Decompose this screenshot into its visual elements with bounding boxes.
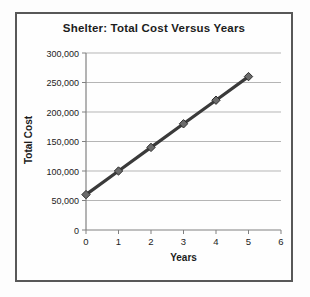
y-tick-label: 250,000 [46, 78, 79, 88]
x-tick-label: 3 [181, 236, 186, 247]
x-tick-label: 2 [148, 236, 153, 247]
chart-frame: Shelter: Total Cost Versus Years 050,000… [15, 12, 293, 282]
y-tick-label: 200,000 [46, 108, 79, 118]
x-tick-label: 6 [278, 236, 283, 247]
line-chart-plot: 050,000100,000150,000200,000250,000300,0… [17, 14, 291, 280]
x-tick-label: 1 [116, 236, 121, 247]
y-axis-title: Total Cost [23, 90, 37, 190]
series-line [86, 77, 249, 195]
y-tick-label: 150,000 [46, 137, 79, 147]
y-tick-label: 300,000 [46, 49, 79, 59]
x-tick-label: 0 [83, 236, 88, 247]
y-tick-label: 50,000 [51, 196, 79, 206]
x-tick-label: 4 [213, 236, 218, 247]
x-axis-title: Years [86, 252, 281, 263]
x-tick-label: 5 [246, 236, 251, 247]
y-tick-label: 100,000 [46, 167, 79, 177]
y-tick-label: 0 [74, 226, 79, 236]
